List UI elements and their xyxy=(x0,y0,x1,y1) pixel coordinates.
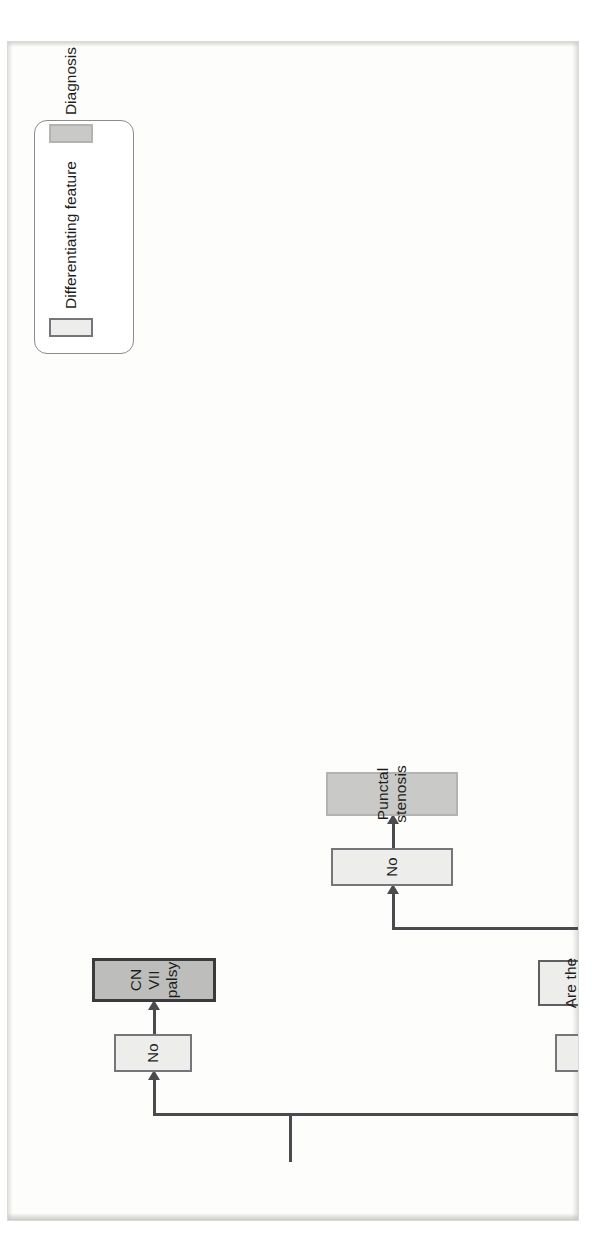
legend-swatch-diagnosis-icon xyxy=(49,124,93,143)
connector-root-to-no xyxy=(153,1078,156,1116)
connector-split2-to-no2 xyxy=(392,892,395,930)
connector-no-to-cn7 xyxy=(153,1006,156,1034)
connector-root-stem xyxy=(289,1114,292,1162)
question-puncta-present-text: Are the puncta present and/or patent? xyxy=(562,953,578,1013)
legend-label-diagnosis: Diagnosis xyxy=(62,47,80,115)
branch-label-no-2-text: No xyxy=(383,853,401,880)
connector-split2 xyxy=(393,927,578,930)
outcome-cn7-palsy-text: CN VII palsy xyxy=(127,958,182,1003)
legend-swatch-differentiating-feature-icon xyxy=(49,318,93,337)
branch-label-no-1-text: No xyxy=(144,1039,162,1066)
legend-item-differentiating-feature: Differentiating feature xyxy=(49,161,93,337)
branch-label-yes-1[interactable]: Yes xyxy=(555,1034,578,1072)
flowchart-diagram: No CN VII palsy Yes Are the puncta prese… xyxy=(8,42,578,1220)
scanned-page-sheet: No CN VII palsy Yes Are the puncta prese… xyxy=(8,42,578,1220)
outcome-punctal-stenosis[interactable]: Punctal stenosis xyxy=(326,772,458,816)
legend-label-differentiating-feature: Differentiating feature xyxy=(62,161,80,309)
branch-label-no-1[interactable]: No xyxy=(114,1034,192,1072)
branch-label-no-2[interactable]: No xyxy=(331,848,453,886)
legend: Differentiating feature Diagnosis Refer … xyxy=(34,120,134,354)
question-puncta-present[interactable]: Are the puncta present and/or patent? xyxy=(538,960,578,1006)
outcome-punctal-stenosis-text: Punctal stenosis xyxy=(374,761,411,827)
connector-root-split xyxy=(154,1113,578,1116)
outcome-cn7-palsy[interactable]: CN VII palsy xyxy=(92,958,216,1002)
legend-item-diagnosis: Diagnosis xyxy=(49,47,93,143)
